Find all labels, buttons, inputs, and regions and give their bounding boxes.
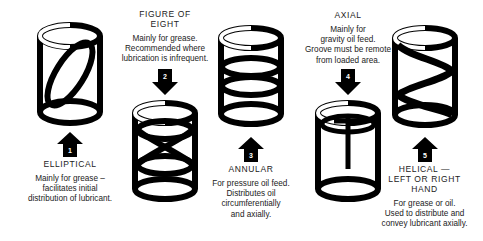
groove-heading: HELICAL — LEFT OR RIGHT HAND <box>366 164 483 194</box>
marker-number: 2 <box>163 73 167 80</box>
marker-number: 4 <box>346 73 350 80</box>
helical-groove-cylinder <box>366 23 483 135</box>
heading-line: HELICAL — <box>366 164 483 174</box>
marker-number: 1 <box>68 147 72 154</box>
heading-line: HAND <box>366 184 483 194</box>
marker-number: 3 <box>249 152 253 159</box>
arrow-up-icon: 5 <box>366 137 483 163</box>
marker-number: 5 <box>423 152 427 159</box>
description-line: For grease or oil. <box>366 199 483 209</box>
heading-line: LEFT OR RIGHT <box>366 174 483 184</box>
groove-item-helical: 5 HELICAL — LEFT OR RIGHT HAND For greas… <box>366 0 483 241</box>
groove-description: For grease or oil. Used to distribute an… <box>366 199 483 230</box>
description-line: convey lubricant axially. <box>366 219 483 229</box>
description-line: Used to distribute and <box>366 209 483 219</box>
groove-types-diagram: 1 ELLIPTICAL Mainly for grease – facilit… <box>0 0 483 241</box>
